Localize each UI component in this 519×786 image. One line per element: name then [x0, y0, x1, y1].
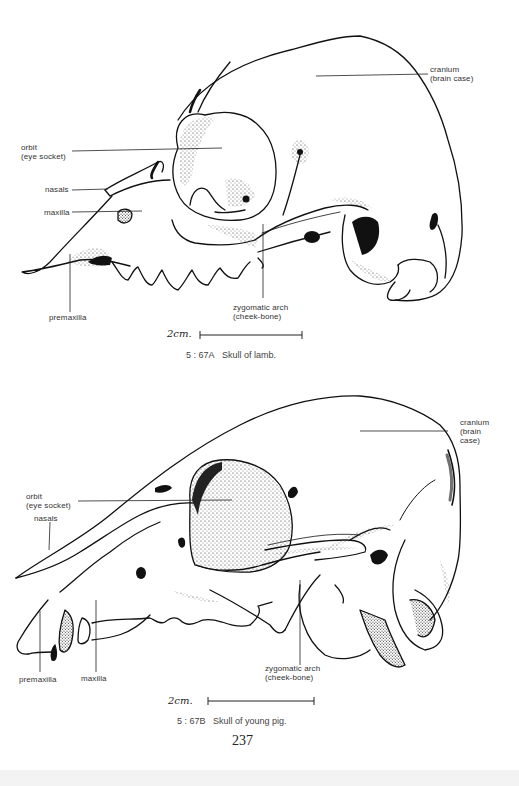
skull-illustrations	[0, 0, 519, 786]
label-orbit: orbit (eye socket)	[26, 492, 71, 510]
label-orbit: orbit (eye socket)	[21, 143, 66, 161]
page-bottom-edge	[0, 770, 519, 786]
pig-skull-drawing	[16, 396, 461, 667]
label-zygomatic-arch: zygomatic arch (cheek-bone)	[265, 664, 320, 682]
label-premaxilla: premaxilla	[49, 313, 86, 322]
lamb-scale-bar	[200, 331, 302, 339]
pig-scale-bar	[208, 697, 314, 705]
figure-caption-lamb: 5 : 67A Skull of lamb.	[186, 350, 276, 360]
label-cranium: cranium (brain case)	[460, 418, 489, 445]
label-maxilla: maxilla	[81, 674, 107, 683]
scale-label-pig: 2cm.	[168, 695, 193, 706]
page-number: 237	[232, 733, 253, 749]
label-maxilla: maxilla	[44, 208, 70, 217]
lamb-skull-drawing	[22, 36, 462, 301]
scale-label-lamb: 2cm.	[167, 328, 192, 339]
label-zygomatic-arch: zygomatic arch (cheek-bone)	[233, 303, 288, 321]
figure-title: Skull of young pig.	[213, 716, 287, 726]
figure-number: 5 : 67B	[177, 716, 206, 726]
figure-caption-pig: 5 : 67B Skull of young pig.	[177, 716, 287, 726]
figure-title: Skull of lamb.	[222, 350, 276, 360]
label-nasals: nasals	[45, 185, 69, 194]
book-page: cranium (brain case) orbit (eye socket) …	[0, 0, 519, 786]
label-nasals: nasals	[34, 514, 58, 523]
label-premaxilla: premaxilla	[19, 675, 56, 684]
figure-number: 5 : 67A	[186, 350, 215, 360]
label-cranium: cranium (brain case)	[430, 65, 473, 83]
